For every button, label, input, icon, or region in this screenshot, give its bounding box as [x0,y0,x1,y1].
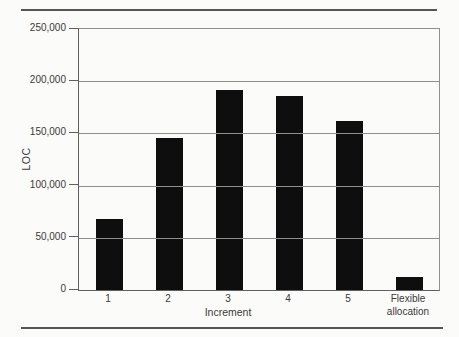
bar-increment-2 [156,138,183,290]
gridline [79,133,439,134]
bar-increment-4 [276,96,303,290]
y-tick-label: 250,000 [0,22,66,33]
bar-slot [319,29,379,290]
y-tick-label: 150,000 [0,126,66,137]
gridline [79,238,439,239]
figure-bottom-rule [21,327,443,329]
x-tick-label: Flexible allocation [378,292,438,318]
y-tick-label: 50,000 [0,231,66,242]
figure-top-rule [21,9,437,11]
bars [79,29,439,290]
x-axis-title: Increment [78,306,378,318]
y-tick-label: 100,000 [0,179,66,190]
y-tick [69,132,78,133]
bar-slot [379,29,439,290]
y-axis-ticks [69,28,78,289]
gridline [79,186,439,187]
figure-page: LOC 250,000200,000150,000100,00050,0000 … [0,0,459,337]
y-tick [69,289,78,290]
y-axis-labels: 250,000200,000150,000100,00050,0000 [0,28,66,289]
y-tick-label: 0 [0,283,66,294]
y-tick [69,28,78,29]
bar-slot [259,29,319,290]
gridline [79,81,439,82]
plot-area [78,28,440,291]
bar-increment-5 [336,121,363,290]
bar-slot [139,29,199,290]
y-tick-label: 200,000 [0,74,66,85]
bar-slot [199,29,259,290]
y-tick [69,236,78,237]
bar-slot [79,29,139,290]
bar-increment-3 [216,90,243,290]
y-tick [69,184,78,185]
bar-increment-flexible-allocation [396,277,423,290]
y-tick [69,80,78,81]
bar-increment-1 [96,219,123,290]
